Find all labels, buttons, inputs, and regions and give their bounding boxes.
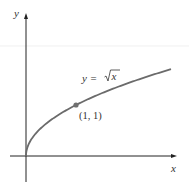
point-marker (73, 102, 78, 107)
x-axis-arrow-icon (171, 154, 177, 158)
x-axis-label: x (170, 162, 176, 174)
y-axis-label: y (13, 7, 19, 19)
equation-lhs: y = (81, 72, 97, 84)
y-axis-arrow-icon (24, 13, 28, 19)
sqrt-graph: y x y = x (1, 1) (0, 0, 189, 184)
equation-label: y = (81, 72, 97, 84)
equation-rhs: x (111, 70, 117, 82)
point-label: (1, 1) (79, 110, 102, 122)
